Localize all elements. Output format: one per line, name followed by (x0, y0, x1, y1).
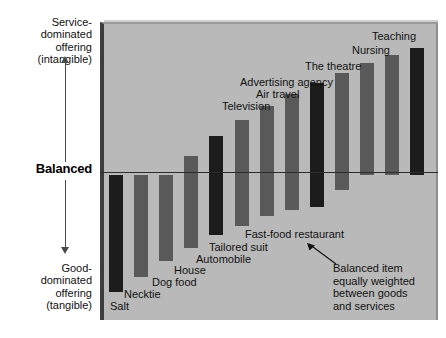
bar-tailored-suit (235, 120, 249, 226)
bar-label-automobile: Automobile (196, 253, 251, 265)
bar-dog-food (159, 175, 173, 262)
bar-label-necktie: Necktie (124, 288, 161, 300)
bar-label-fast-food-restaurant: Fast-food restaurant (245, 228, 344, 240)
axis-arrow-up-icon (61, 56, 69, 63)
bar-the-theatre (360, 63, 374, 175)
axis-arrow-down-icon (61, 247, 69, 254)
bar-television (285, 94, 299, 210)
bar-fast-food-restaurant (260, 106, 274, 216)
bar-label-teaching: Teaching (372, 30, 416, 42)
bar-air-travel (310, 83, 324, 208)
bar-label-salt: Salt (110, 300, 129, 312)
bar-nursing (385, 55, 399, 174)
bar-label-dog-food: Dog food (152, 276, 197, 288)
bar-necktie (134, 175, 148, 277)
bar-label-tailored-suit: Tailored suit (209, 241, 268, 253)
balanced-baseline (100, 172, 438, 173)
axis-label-service-dominated: Service- dominated offering (intangible) (0, 16, 92, 66)
bar-label-air-travel: Air travel (256, 88, 299, 100)
bar-label-house: House (174, 264, 206, 276)
bar-label-advertising-agency: Advertising agency (240, 76, 333, 88)
chart-figure: Service- dominated offering (intangible)… (0, 0, 446, 338)
axis-label-good-dominated: Good- dominated offering (tangible) (0, 262, 92, 312)
bar-teaching (410, 48, 424, 175)
annotation-text: Balanced item equally weighted between g… (333, 262, 437, 312)
bar-automobile (209, 136, 223, 235)
axis-arrow-down-line (65, 180, 66, 248)
axis-label-balanced: Balanced (0, 161, 92, 176)
bar-label-nursing: Nursing (352, 44, 390, 56)
bar-label-the-theatre: The theatre (305, 60, 361, 72)
bar-label-television: Television (222, 100, 270, 112)
bar-house (184, 156, 198, 248)
bar-salt (109, 175, 123, 292)
axis-arrow-up-line (65, 62, 66, 162)
